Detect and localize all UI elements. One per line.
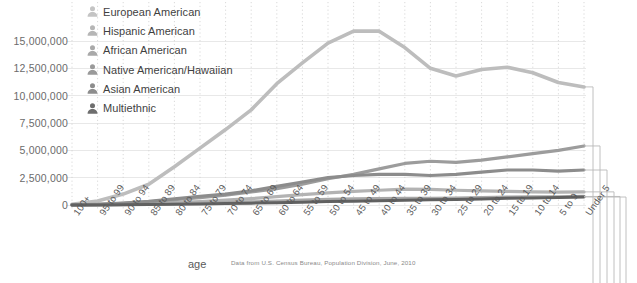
legend-item[interactable]: Asian American <box>86 79 316 98</box>
legend-item[interactable]: Native American/Hawaiian <box>86 60 316 79</box>
x-axis-tick-label: 30 to 34 <box>429 182 458 217</box>
x-axis-tick-label: 60 to 64 <box>276 182 305 217</box>
x-axis-title: age <box>188 258 206 270</box>
x-axis-tick-label: 5 to 9 <box>557 191 580 217</box>
x-axis-tick-label: 85 to 89 <box>148 182 177 217</box>
x-axis-tick-label: 80 to 84 <box>173 182 202 217</box>
legend-item[interactable]: Multiethnic <box>86 98 316 117</box>
x-axis-tick-label: 35 to 39 <box>404 182 433 217</box>
legend-item[interactable]: Hispanic American <box>86 21 316 40</box>
x-axis-tick-label: 100+ <box>71 193 93 217</box>
legend-item-label: Asian American <box>103 83 180 95</box>
chart-legend: European AmericanHispanic AmericanAfrica… <box>86 2 316 118</box>
legend-item-label: African American <box>103 44 187 56</box>
person-icon <box>86 24 99 37</box>
legend-item-label: Native American/Hawaiian <box>103 64 233 76</box>
legend-item[interactable]: African American <box>86 41 316 60</box>
population-by-age-line-chart: 02,500,0005,000,0007,500,00010,000,00012… <box>0 0 637 283</box>
x-axis-tick-label: 20 to 24 <box>481 182 510 217</box>
person-icon <box>86 82 99 95</box>
person-icon <box>86 63 99 76</box>
x-axis-tick-label: 15 to 19 <box>506 182 535 217</box>
x-axis-tick-label: 40 to 44 <box>378 182 407 217</box>
x-axis-tick-label: 75 to 79 <box>199 182 228 217</box>
source-note: Data from U.S. Census Bureau, Population… <box>231 259 416 266</box>
x-axis-tick-label: 65 to 69 <box>250 182 279 217</box>
legend-item-label: Hispanic American <box>103 25 195 37</box>
x-axis-tick-label: 45 to 49 <box>353 182 382 217</box>
x-axis-tick-label: 70 to 74 <box>225 182 254 217</box>
legend-item-label: European American <box>103 6 200 18</box>
x-axis-tick-label: 55 to 59 <box>301 182 330 217</box>
x-axis-tick-label: 95 to 99 <box>97 182 126 217</box>
x-axis-tick-label: 10 to 14 <box>532 182 561 217</box>
x-axis-tick-label: 50 to 54 <box>327 182 356 217</box>
legend-item[interactable]: European American <box>86 2 316 21</box>
person-icon <box>86 102 99 115</box>
x-axis-tick-label: Under 5 <box>583 183 612 218</box>
person-icon <box>86 5 99 18</box>
x-axis-tick-label: 25 to 29 <box>455 182 484 217</box>
legend-item-label: Multiethnic <box>103 102 156 114</box>
person-icon <box>86 44 99 57</box>
x-axis-tick-label: 90 to 94 <box>122 182 151 217</box>
